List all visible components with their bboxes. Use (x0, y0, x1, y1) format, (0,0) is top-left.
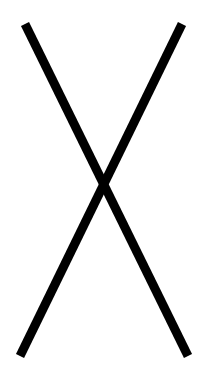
x-mark-canvas (0, 0, 209, 375)
descending-stroke (25, 24, 188, 356)
ascending-stroke (20, 24, 182, 356)
x-mark-icon (0, 0, 209, 375)
